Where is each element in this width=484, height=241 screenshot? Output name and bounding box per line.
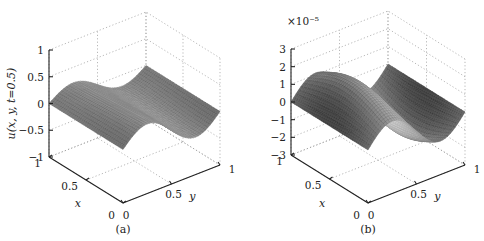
z-tick-label: −0.5 [19, 124, 45, 136]
surface-plot-b-canvas: −3−2−1012300.5100.51xy×10⁻⁵(b) [242, 0, 484, 241]
x-tick-label: 0 [108, 209, 115, 221]
z-tick-label: 0.5 [27, 71, 44, 83]
surface-mesh [49, 66, 220, 150]
panel-caption: (b) [360, 223, 376, 236]
surface-plot-a: −1−0.500.5100.5100.51xyu(x, y, t=0.5)(a) [0, 0, 242, 241]
x-tick-label: 0.5 [61, 180, 78, 192]
y-axis-label: y [433, 190, 441, 203]
surface-plot-a-canvas: −1−0.500.5100.5100.51xyu(x, y, t=0.5)(a) [0, 0, 242, 241]
z-tick-label: 0 [279, 96, 286, 108]
y-tick-label: 0.5 [165, 188, 182, 200]
y-tick-label: 1 [474, 163, 481, 175]
z-tick-label: 1 [279, 78, 286, 90]
surface-mesh [291, 64, 465, 150]
x-tick-label: 0 [353, 209, 360, 221]
y-tick-label: 0 [123, 209, 130, 221]
surface-plot-b: −3−2−1012300.5100.51xy×10⁻⁵(b) [242, 0, 484, 241]
y-tick-label: 0.5 [410, 188, 427, 200]
y-axis-label: y [188, 190, 196, 203]
z-tick-label: 0 [37, 98, 44, 110]
z-tick-label: 3 [279, 43, 286, 55]
x-axis-label: x [75, 197, 82, 210]
panel-caption: (a) [115, 223, 130, 236]
z-tick-label: −2 [271, 131, 286, 143]
z-exponent-label: ×10⁻⁵ [287, 15, 319, 27]
x-axis-label: x [319, 197, 326, 210]
z-axis-label: u(x, y, t=0.5) [5, 68, 18, 140]
z-tick-label: 2 [279, 61, 286, 73]
z-tick-label: −1 [271, 114, 286, 126]
z-tick-label: 1 [37, 44, 44, 56]
y-tick-label: 0 [368, 209, 375, 221]
y-tick-label: 1 [229, 163, 236, 175]
x-tick-label: 1 [276, 155, 283, 167]
x-tick-label: 1 [34, 157, 41, 169]
x-tick-label: 0.5 [305, 179, 322, 191]
